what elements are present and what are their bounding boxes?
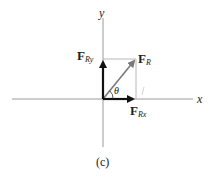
- tick-mark: [142, 87, 144, 95]
- y-axis-label: y: [98, 6, 105, 20]
- force-diagram: y x FR FRy FRx θ (c): [0, 0, 214, 181]
- x-component-label: FRx: [130, 103, 147, 119]
- x-axis-label: x: [196, 92, 203, 106]
- angle-arc: [110, 91, 113, 99]
- y-component-label: FRy: [77, 48, 94, 64]
- caption: (c): [96, 155, 109, 169]
- angle-label: θ: [114, 85, 119, 96]
- resultant-label: FR: [138, 51, 151, 67]
